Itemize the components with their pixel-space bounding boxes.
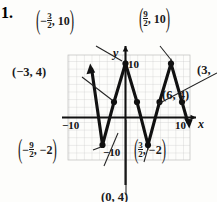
label-bottom-right-y: −2 [149, 144, 162, 156]
x-tick-negative-ten: −10 [62, 119, 79, 131]
label-minus-three-four: (−3, 4) [12, 66, 46, 79]
x-tick-positive-ten: 10 [175, 119, 186, 131]
point-dot [134, 99, 140, 105]
y-axis-label: y [113, 46, 118, 61]
fraction-three-halves: 32 [47, 12, 52, 31]
paren-close: ) [162, 135, 166, 162]
paren-close: ) [53, 135, 57, 162]
fraction-nine-halves: 92 [29, 141, 34, 160]
label-zero-four: (0, 4) [101, 191, 128, 202]
label-top-right-y: 10 [154, 13, 166, 25]
label-three-clipped: (3, [197, 64, 211, 77]
paren-close: ) [166, 4, 170, 31]
label-six-four: (6, 4) [162, 89, 189, 102]
y-tick-positive-ten: 10 [128, 58, 139, 70]
paren-open: ( [18, 135, 22, 162]
label-bottom-left-sign: − [22, 144, 29, 156]
fraction-three-halves: 32 [138, 141, 143, 160]
label-top-left-sign: − [40, 15, 47, 27]
x-axis-label: x [198, 117, 204, 132]
label-top-left: (−32, 10) [36, 12, 74, 31]
label-bottom-left-y: −2 [40, 144, 53, 156]
label-top-left-y: 10 [58, 15, 70, 27]
label-bottom-left: (−92, −2) [18, 141, 57, 160]
paren-open: ( [36, 6, 40, 33]
y-tick-negative-ten: −10 [103, 146, 120, 158]
point-dot [168, 60, 174, 66]
fraction-nine-halves: 92 [143, 10, 148, 29]
paren-close: ) [70, 6, 74, 33]
label-bottom-right: (32, −2) [134, 141, 166, 160]
label-top-right: (92, 10) [139, 10, 170, 29]
